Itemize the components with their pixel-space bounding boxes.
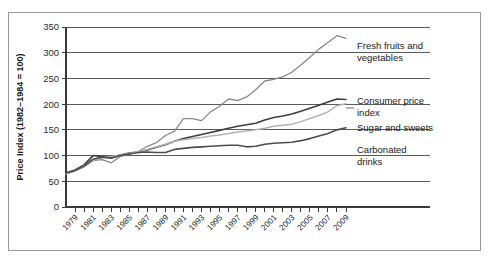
data-series xyxy=(66,36,346,174)
series-label-line1: Consumer price xyxy=(357,95,424,106)
x-tick-label: 1981 xyxy=(79,213,99,233)
y-axis-title: Price Index (1982–1984 = 100) xyxy=(15,54,25,181)
series-label-1: Consumer priceindex xyxy=(357,95,424,118)
y-tick-label: 0 xyxy=(54,201,59,212)
series-label-2: Sugar and sweets xyxy=(357,122,433,133)
y-tick-label: 200 xyxy=(43,99,59,110)
x-tick-label: 1993 xyxy=(187,213,207,233)
y-tick-label: 350 xyxy=(43,21,59,32)
x-tick-label: 2001 xyxy=(259,213,279,233)
series-label-line2: index xyxy=(357,107,380,118)
y-tick-label: 250 xyxy=(43,73,59,84)
y-tick-label: 100 xyxy=(43,150,59,161)
x-tick-label: 2003 xyxy=(277,213,297,233)
x-tick-label: 1991 xyxy=(169,213,189,233)
x-tick-label: 1989 xyxy=(151,213,171,233)
line-chart: 050100150200250300350 197919811983198519… xyxy=(9,13,480,250)
series-label-line2: vegetables xyxy=(357,52,403,63)
x-tick-label: 1997 xyxy=(223,213,243,233)
x-tick-label: 2005 xyxy=(296,213,316,233)
x-tick-label: 1979 xyxy=(61,213,81,233)
series-line-0 xyxy=(66,36,346,174)
x-tick-label: 1985 xyxy=(115,213,135,233)
series-label-line1: Sugar and sweets xyxy=(357,122,433,133)
series-labels: Fresh fruits andvegetablesConsumer price… xyxy=(346,40,433,167)
x-tick-label: 1983 xyxy=(97,213,117,233)
x-tick-label: 1999 xyxy=(241,213,261,233)
y-tick-label: 50 xyxy=(48,176,59,187)
series-label-0: Fresh fruits andvegetables xyxy=(357,40,423,63)
x-tick-label: 2009 xyxy=(332,213,352,233)
y-tick-label: 300 xyxy=(43,47,59,58)
series-label-line1: Fresh fruits and xyxy=(357,40,423,51)
x-tick-label: 2007 xyxy=(314,213,334,233)
chart-figure: 050100150200250300350 197919811983198519… xyxy=(8,12,481,251)
series-label-line2: drinks xyxy=(357,156,383,167)
series-label-line1: Carbonated xyxy=(357,144,407,155)
x-tick-label: 1987 xyxy=(133,213,153,233)
y-axis: 050100150200250300350 xyxy=(43,21,66,212)
y-tick-label: 150 xyxy=(43,124,59,135)
x-tick-label: 1995 xyxy=(205,213,225,233)
x-axis: 1979198119831985198719891991199319951997… xyxy=(61,207,430,232)
y-axis-title-text: Price Index (1982–1984 = 100) xyxy=(15,54,25,181)
series-line-3 xyxy=(66,128,346,173)
series-line-2 xyxy=(66,104,346,174)
